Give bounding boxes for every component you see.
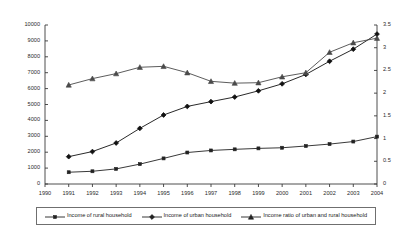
legend-triangle-marker-icon [241, 207, 261, 225]
y-axis-left-tick-label: 1000 [6, 165, 40, 171]
y-axis-left-tick-label: 0 [6, 181, 40, 187]
legend-diamond-marker-icon [142, 207, 162, 225]
y-axis-right-tick-label: 1 [383, 136, 407, 142]
y-axis-left-tick-label: 3000 [6, 133, 40, 139]
x-axis-tick-label: 1997 [199, 191, 223, 197]
y-axis-left-tick-label: 6000 [6, 86, 40, 92]
x-axis-tick-label: 1992 [80, 191, 104, 197]
plot-area [0, 0, 412, 236]
x-axis-tick-label: 1991 [57, 191, 81, 197]
x-axis-tick-label: 1995 [152, 191, 176, 197]
y-axis-right-tick-label: 3 [383, 45, 407, 51]
legend-item[interactable]: Income of urban household [142, 207, 232, 225]
legend-item-label: Income of rural household [67, 213, 132, 219]
x-axis-tick-label: 2002 [318, 191, 342, 197]
x-axis-tick-label: 1998 [223, 191, 247, 197]
legend-item[interactable]: Income of rural household [45, 207, 132, 225]
y-axis-right-tick-label: 3.5 [383, 22, 407, 28]
x-axis-tick-label: 1996 [175, 191, 199, 197]
legend-square-marker-icon [45, 207, 65, 225]
x-axis-tick-label: 1999 [246, 191, 270, 197]
y-axis-right-tick-label: 0 [383, 181, 407, 187]
y-axis-left-tick-label: 9000 [6, 38, 40, 44]
y-axis-right-tick-label: 1.5 [383, 113, 407, 119]
y-axis-left-tick-label: 10000 [6, 22, 40, 28]
series-triangle [66, 36, 379, 88]
x-axis-tick-label: 1994 [128, 191, 152, 197]
x-axis-tick-label: 2000 [270, 191, 294, 197]
y-axis-right-tick-label: 0.5 [383, 158, 407, 164]
x-axis-tick-label: 2004 [365, 191, 389, 197]
y-axis-left-tick-label: 5000 [6, 102, 40, 108]
y-axis-right-tick-label: 2 [383, 90, 407, 96]
legend-item-label: Income of urban household [164, 213, 232, 219]
x-axis-tick-label: 2001 [294, 191, 318, 197]
y-axis-left-tick-label: 8000 [6, 54, 40, 60]
x-axis-tick-label: 1990 [33, 191, 57, 197]
series-square [67, 135, 378, 174]
y-axis-left-tick-label: 7000 [6, 70, 40, 76]
legend-item-label: Income ratio of urban and rural househol… [263, 213, 367, 219]
line-chart: 0100020003000400050006000700080009000100… [0, 0, 412, 236]
legend-item[interactable]: Income ratio of urban and rural househol… [241, 207, 367, 225]
y-axis-left-tick-label: 2000 [6, 149, 40, 155]
chart-legend: Income of rural householdIncome of urban… [36, 207, 376, 225]
x-axis-tick-label: 1993 [104, 191, 128, 197]
y-axis-right-tick-label: 2.5 [383, 67, 407, 73]
y-axis-left-tick-label: 4000 [6, 117, 40, 123]
x-axis-tick-label: 2003 [341, 191, 365, 197]
